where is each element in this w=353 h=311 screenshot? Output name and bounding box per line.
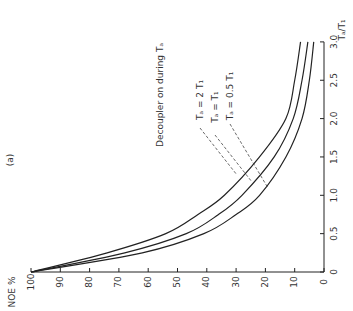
y-tick-label: 90	[55, 276, 65, 288]
y-tick-label: 70	[113, 276, 123, 288]
leader-line	[215, 135, 252, 182]
leader-line	[200, 128, 237, 175]
curve-series-0	[31, 42, 301, 272]
x-tick-label: 2.5	[329, 73, 339, 87]
x-tick-label: 1.5	[329, 150, 339, 164]
y-tick-label: 60	[143, 276, 153, 288]
y-tick-label: 0	[319, 279, 329, 285]
x-tick-label: 0	[329, 269, 339, 275]
annotation-text: Decoupler on during Tₐ	[155, 43, 165, 147]
x-tick-label: 1.0	[329, 188, 339, 203]
y-tick-label: 80	[84, 276, 94, 288]
x-axis-label: Tₐ/T₁	[337, 19, 347, 42]
legend-label-series-2: Tₐ = 0.5 T₁	[225, 71, 235, 121]
y-tick-label: 40	[201, 276, 211, 288]
y-axis-label: NOE %	[7, 276, 17, 307]
panel-label: (a)	[5, 154, 15, 167]
legend-label-series-0: Tₐ = 2 T₁	[195, 80, 205, 121]
y-tick-label: 30	[231, 276, 241, 288]
legend-label-series-1: Tₐ = T₁	[210, 91, 220, 124]
y-tick-label: 100	[26, 273, 36, 290]
y-tick-label: 50	[172, 276, 182, 288]
curve-series-1	[31, 42, 308, 272]
curve-series-2	[31, 42, 314, 272]
y-tick-label: 20	[260, 276, 270, 288]
x-tick-label: 2.0	[329, 111, 339, 126]
noe-chart: 010203040506070809010000.51.01.52.02.53.…	[0, 0, 353, 311]
y-tick-label: 10	[289, 276, 299, 288]
x-tick-label: 0.5	[329, 226, 339, 240]
